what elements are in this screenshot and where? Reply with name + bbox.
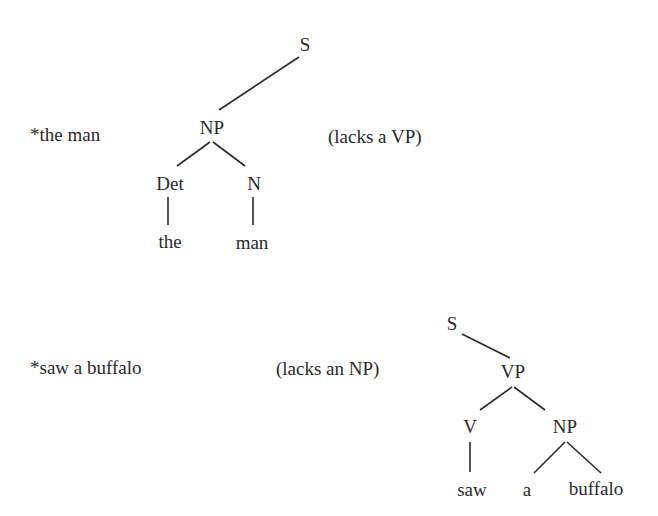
word-saw: saw — [457, 479, 487, 501]
node-np: NP — [200, 117, 224, 139]
node-n: N — [247, 173, 261, 195]
example-note: (lacks a VP) — [328, 126, 422, 148]
word-the: the — [158, 231, 181, 253]
branch-s-np — [219, 57, 299, 110]
node-s: S — [447, 313, 458, 335]
branch-vp-v — [480, 387, 512, 410]
node-det: Det — [156, 173, 183, 195]
branch-vp-np — [514, 387, 545, 410]
example-note: (lacks an NP) — [276, 358, 379, 380]
node-s: S — [300, 34, 311, 56]
node-v: V — [463, 416, 477, 438]
branch-s-vp — [462, 334, 510, 358]
example-phrase: *saw a buffalo — [30, 357, 142, 379]
word-a: a — [523, 479, 531, 501]
node-vp: VP — [501, 361, 525, 383]
branch-np-det — [177, 142, 210, 166]
word-buffalo: buffalo — [569, 478, 624, 500]
word-man: man — [236, 232, 269, 254]
tree-branches — [0, 0, 658, 516]
branch-np-n — [213, 142, 245, 166]
node-np: NP — [553, 416, 577, 438]
example-phrase: *the man — [30, 124, 100, 146]
branch-np-buffalo — [567, 442, 601, 473]
syntax-tree-diagram: *the man (lacks a VP) S NP Det N the man… — [0, 0, 658, 516]
branch-np-a — [534, 442, 565, 473]
